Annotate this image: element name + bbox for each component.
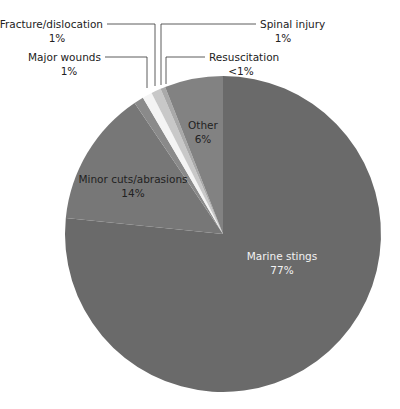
label-marine-stings-pct: 77% bbox=[270, 264, 293, 276]
label-resuscitation-pct: <1% bbox=[228, 65, 253, 77]
leader-line-major-wounds bbox=[105, 57, 147, 88]
label-fracture-name: Fracture/dislocation bbox=[0, 18, 103, 30]
label-major-wounds-pct: 1% bbox=[61, 65, 78, 77]
label-marine-stings-name: Marine stings bbox=[247, 250, 317, 262]
pie-slices bbox=[65, 76, 381, 392]
label-minor-cuts-pct: 14% bbox=[121, 187, 144, 199]
label-other-name: Other bbox=[188, 119, 218, 131]
label-major-wounds-name: Major wounds bbox=[28, 51, 101, 63]
label-spinal-pct: 1% bbox=[275, 32, 292, 44]
pie-chart: Fracture/dislocation 1% Major wounds 1% … bbox=[0, 0, 400, 409]
label-other-pct: 6% bbox=[195, 133, 212, 145]
leader-line-fracture bbox=[107, 24, 155, 86]
label-resuscitation-name: Resuscitation bbox=[209, 51, 279, 63]
label-minor-cuts-name: Minor cuts/abrasions bbox=[78, 173, 187, 185]
label-fracture-pct: 1% bbox=[49, 32, 66, 44]
label-spinal-name: Spinal injury bbox=[260, 18, 325, 30]
